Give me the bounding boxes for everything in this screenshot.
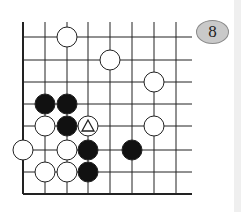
white-stone [35, 116, 55, 136]
page-edge-strip [234, 0, 241, 212]
black-stone [35, 94, 55, 114]
problem-number-badge: 8 [196, 20, 229, 44]
black-stone [78, 162, 98, 182]
black-stone [78, 140, 98, 160]
white-stone [144, 72, 164, 92]
white-stone [100, 50, 120, 70]
black-stone [122, 140, 142, 160]
white-stone [144, 116, 164, 136]
problem-number: 8 [208, 22, 217, 42]
white-stone [57, 140, 77, 160]
black-stone [57, 94, 77, 114]
white-stone [57, 27, 77, 47]
white-stone [13, 140, 33, 160]
black-stone [57, 116, 77, 136]
white-stone [35, 162, 55, 182]
white-stone [57, 162, 77, 182]
